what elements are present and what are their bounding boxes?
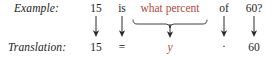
example-token-of: of (219, 2, 229, 14)
translation-row-label: Translation: (8, 41, 66, 53)
down-arrow-icon (220, 16, 229, 38)
arrow-60 (250, 16, 259, 42)
down-arrow-icon (118, 16, 127, 38)
translation-token-60: 60 (248, 41, 260, 53)
arrow-of-times (220, 16, 229, 42)
down-arrow-icon (166, 24, 175, 39)
arrow-15 (92, 16, 101, 42)
arrow-is-equals (118, 16, 127, 42)
translation-token-y: y (167, 41, 172, 53)
down-arrow-icon (92, 16, 101, 38)
translation-token-15: 15 (90, 41, 102, 53)
translation-token-multiply-dot: · (222, 40, 226, 52)
example-token-what-percent: what percent (140, 2, 199, 14)
translation-token-equals: = (119, 41, 126, 53)
example-token-15: 15 (90, 2, 102, 14)
equation-translation-figure: Example: Translation: 15 is what percent… (0, 0, 279, 60)
down-arrow-icon (250, 16, 259, 38)
example-token-60: 60? (246, 2, 263, 14)
example-row-label: Example: (14, 2, 59, 14)
example-token-is: is (118, 2, 126, 14)
